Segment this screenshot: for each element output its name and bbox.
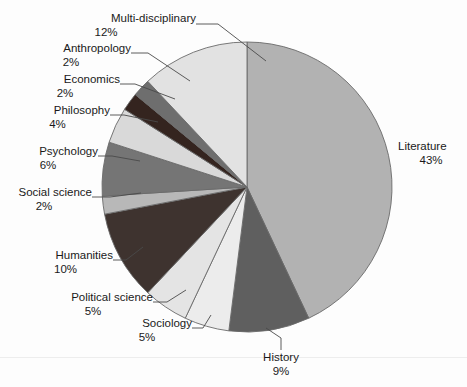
pie-label-history: History 9% <box>246 350 316 378</box>
pie-label-political-science-name: Political science <box>33 290 153 304</box>
pie-label-sociology-pct: 5% <box>102 330 192 344</box>
pie-label-economics-name: Economics <box>10 72 120 86</box>
pie-label-literature: Literature 43% <box>398 139 464 167</box>
pie-label-multi-disciplinary: Multi-disciplinary 12% <box>16 11 196 39</box>
pie-label-economics-pct: 2% <box>10 86 120 100</box>
pie-label-literature-pct: 43% <box>398 153 464 167</box>
pie-label-humanities-name: Humanities <box>18 248 113 262</box>
leader-line-history <box>266 328 281 350</box>
pie-chart-figure: Multi-disciplinary 12% Anthropology 2% E… <box>0 0 467 387</box>
pie-label-sociology-name: Sociology <box>102 316 192 330</box>
pie-label-political-science: Political science 5% <box>33 290 153 318</box>
pie-label-anthropology-name: Anthropology <box>11 41 131 55</box>
pie-label-psychology-pct: 6% <box>0 158 98 172</box>
pie-label-philosophy-name: Philosophy <box>5 103 110 117</box>
pie-label-humanities-pct: 10% <box>18 262 113 276</box>
pie-label-philosophy: Philosophy 4% <box>5 103 110 131</box>
pie-label-psychology-name: Psychology <box>0 144 98 158</box>
pie-label-philosophy-pct: 4% <box>5 117 110 131</box>
pie-label-social-science-name: Social science <box>0 185 92 199</box>
pie-label-psychology: Psychology 6% <box>0 144 98 172</box>
pie-label-history-pct: 9% <box>246 364 316 378</box>
pie-label-multi-disciplinary-name: Multi-disciplinary <box>16 11 196 25</box>
pie-label-humanities: Humanities 10% <box>18 248 113 276</box>
pie-label-multi-disciplinary-pct: 12% <box>16 25 196 39</box>
pie-label-sociology: Sociology 5% <box>102 316 192 344</box>
pie-label-anthropology-pct: 2% <box>11 55 131 69</box>
pie-label-history-name: History <box>246 350 316 364</box>
pie-label-social-science-pct: 2% <box>0 199 92 213</box>
pie-label-anthropology: Anthropology 2% <box>11 41 131 69</box>
pie-label-social-science: Social science 2% <box>0 185 92 213</box>
pie-slice-group <box>102 42 392 332</box>
pie-label-literature-name: Literature <box>398 139 464 153</box>
pie-label-economics: Economics 2% <box>10 72 120 100</box>
